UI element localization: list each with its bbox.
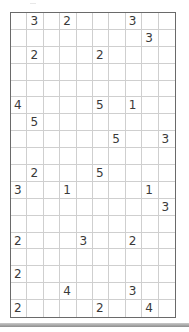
grid-cell[interactable]: 3 bbox=[142, 30, 158, 47]
grid-cell[interactable]: 2 bbox=[11, 233, 27, 250]
grid-cell[interactable] bbox=[142, 13, 158, 30]
grid-cell[interactable] bbox=[44, 266, 60, 283]
grid-cell[interactable] bbox=[93, 233, 109, 250]
grid-cell[interactable] bbox=[142, 47, 158, 64]
grid-cell[interactable] bbox=[159, 97, 175, 114]
grid-cell[interactable]: 2 bbox=[60, 13, 76, 30]
grid-cell[interactable] bbox=[77, 131, 93, 148]
grid-cell[interactable] bbox=[126, 81, 142, 98]
grid-cell[interactable] bbox=[77, 199, 93, 216]
grid-cell[interactable] bbox=[60, 114, 76, 131]
grid-cell[interactable] bbox=[142, 131, 158, 148]
grid-cell[interactable] bbox=[142, 81, 158, 98]
grid-cell[interactable] bbox=[109, 97, 125, 114]
grid-cell[interactable] bbox=[44, 165, 60, 182]
grid-cell[interactable] bbox=[159, 249, 175, 266]
grid-cell[interactable] bbox=[44, 30, 60, 47]
grid-cell[interactable] bbox=[159, 47, 175, 64]
grid-cell[interactable] bbox=[60, 131, 76, 148]
grid-cell[interactable] bbox=[11, 64, 27, 81]
grid-cell[interactable] bbox=[93, 283, 109, 300]
grid-cell[interactable] bbox=[11, 114, 27, 131]
grid-cell[interactable] bbox=[77, 216, 93, 233]
grid-cell[interactable] bbox=[27, 266, 43, 283]
grid-cell[interactable] bbox=[77, 47, 93, 64]
grid-cell[interactable] bbox=[159, 81, 175, 98]
grid-cell[interactable] bbox=[109, 199, 125, 216]
grid-cell[interactable] bbox=[27, 81, 43, 98]
grid-cell[interactable]: 4 bbox=[142, 300, 158, 317]
grid-cell[interactable] bbox=[27, 249, 43, 266]
grid-cell[interactable] bbox=[77, 266, 93, 283]
grid-cell[interactable] bbox=[60, 165, 76, 182]
grid-cell[interactable] bbox=[159, 266, 175, 283]
grid-cell[interactable] bbox=[93, 216, 109, 233]
grid-cell[interactable] bbox=[44, 216, 60, 233]
grid-cell[interactable]: 4 bbox=[60, 283, 76, 300]
grid-cell[interactable] bbox=[27, 64, 43, 81]
grid-cell[interactable] bbox=[109, 165, 125, 182]
grid-cell[interactable] bbox=[11, 13, 27, 30]
grid-cell[interactable]: 2 bbox=[11, 300, 27, 317]
grid-cell[interactable] bbox=[60, 30, 76, 47]
grid-cell[interactable] bbox=[109, 233, 125, 250]
grid-cell[interactable] bbox=[159, 64, 175, 81]
grid-cell[interactable] bbox=[159, 114, 175, 131]
grid-cell[interactable] bbox=[11, 199, 27, 216]
grid-cell[interactable] bbox=[44, 64, 60, 81]
grid-cell[interactable] bbox=[44, 283, 60, 300]
grid-cell[interactable] bbox=[93, 266, 109, 283]
grid-cell[interactable] bbox=[77, 30, 93, 47]
grid-cell[interactable] bbox=[93, 182, 109, 199]
grid-cell[interactable] bbox=[27, 97, 43, 114]
grid-cell[interactable] bbox=[93, 30, 109, 47]
grid-cell[interactable] bbox=[93, 131, 109, 148]
grid-cell[interactable] bbox=[77, 182, 93, 199]
grid-cell[interactable] bbox=[60, 64, 76, 81]
grid-cell[interactable]: 2 bbox=[93, 47, 109, 64]
grid-cell[interactable] bbox=[27, 283, 43, 300]
grid-cell[interactable] bbox=[44, 131, 60, 148]
grid-cell[interactable] bbox=[126, 199, 142, 216]
grid-cell[interactable]: 2 bbox=[27, 165, 43, 182]
grid-cell[interactable] bbox=[126, 47, 142, 64]
grid-cell[interactable] bbox=[142, 64, 158, 81]
grid-cell[interactable] bbox=[11, 30, 27, 47]
grid-cell[interactable]: 3 bbox=[159, 199, 175, 216]
grid-cell[interactable] bbox=[77, 97, 93, 114]
grid-cell[interactable] bbox=[60, 216, 76, 233]
grid-cell[interactable]: 5 bbox=[93, 165, 109, 182]
grid-cell[interactable] bbox=[77, 64, 93, 81]
grid-cell[interactable] bbox=[109, 81, 125, 98]
grid-cell[interactable] bbox=[126, 216, 142, 233]
grid-cell[interactable] bbox=[44, 97, 60, 114]
grid-cell[interactable] bbox=[44, 300, 60, 317]
grid-cell[interactable] bbox=[27, 148, 43, 165]
grid-cell[interactable] bbox=[60, 199, 76, 216]
grid-cell[interactable] bbox=[126, 165, 142, 182]
grid-cell[interactable] bbox=[142, 266, 158, 283]
grid-cell[interactable]: 2 bbox=[93, 300, 109, 317]
grid-cell[interactable] bbox=[109, 216, 125, 233]
grid-cell[interactable]: 1 bbox=[126, 97, 142, 114]
grid-cell[interactable]: 1 bbox=[60, 182, 76, 199]
grid-cell[interactable] bbox=[93, 64, 109, 81]
grid-cell[interactable] bbox=[27, 216, 43, 233]
grid-cell[interactable] bbox=[126, 300, 142, 317]
grid-cell[interactable] bbox=[126, 249, 142, 266]
grid-cell[interactable] bbox=[159, 13, 175, 30]
grid-cell[interactable]: 5 bbox=[109, 131, 125, 148]
grid-cell[interactable] bbox=[126, 148, 142, 165]
grid-cell[interactable] bbox=[126, 114, 142, 131]
grid-cell[interactable] bbox=[142, 249, 158, 266]
grid-cell[interactable] bbox=[126, 131, 142, 148]
grid-cell[interactable] bbox=[109, 266, 125, 283]
grid-cell[interactable]: 2 bbox=[126, 233, 142, 250]
grid-cell[interactable] bbox=[109, 30, 125, 47]
grid-cell[interactable]: 5 bbox=[27, 114, 43, 131]
grid-cell[interactable] bbox=[93, 81, 109, 98]
grid-cell[interactable] bbox=[109, 114, 125, 131]
grid-cell[interactable]: 3 bbox=[77, 233, 93, 250]
grid-cell[interactable] bbox=[27, 182, 43, 199]
grid-cell[interactable] bbox=[11, 47, 27, 64]
